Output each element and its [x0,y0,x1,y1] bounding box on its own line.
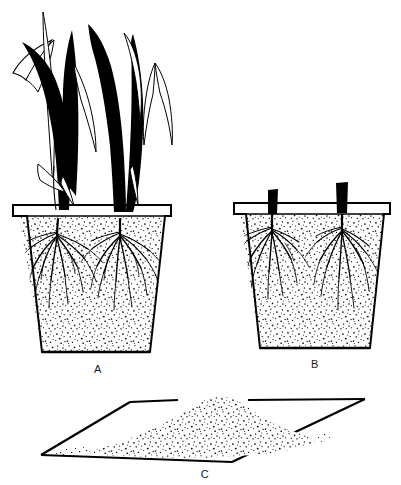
panel-label-a: A [94,363,102,375]
illustration-canvas: A [0,0,401,485]
cut-stem-stub-left [268,189,278,214]
panel-c: C [41,396,365,480]
figure-root: A [0,0,401,485]
panel-b: B [234,182,390,370]
panel-label-c: C [201,468,209,480]
tray-edge-back [248,399,365,400]
panel-label-b: B [311,358,319,370]
pot-a [13,205,171,352]
tray-edge-back [130,400,178,402]
grass-blade-outline [143,63,155,145]
panel-a: A [13,12,172,375]
cut-stem-stub-right [336,182,348,213]
tray-soil-mound [56,396,330,457]
pot-b-soil [240,214,384,348]
grass-blade-solid [88,24,126,212]
grass-blade-outline [155,63,172,145]
panel-a-foliage [13,12,172,212]
panel-b-cut-stems [268,182,348,214]
